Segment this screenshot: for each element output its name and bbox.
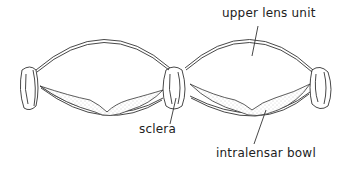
intralensar-bowl-label: intralensar bowl [216,146,316,160]
sclera-label: sclera [139,122,176,136]
sclera-leader [170,98,176,124]
right-intralensar-bowl [190,84,310,116]
upper-lens-leader [252,26,258,56]
left-sclera [20,67,38,110]
left-intralensar-bowl [40,86,163,116]
right-sclera [310,67,331,108]
upper-lens-unit-label: upper lens unit [222,6,316,20]
right-lens-unit [185,39,313,116]
left-lens-unit [36,39,170,115]
leader-lines [170,26,266,144]
middle-sclera [163,67,185,109]
